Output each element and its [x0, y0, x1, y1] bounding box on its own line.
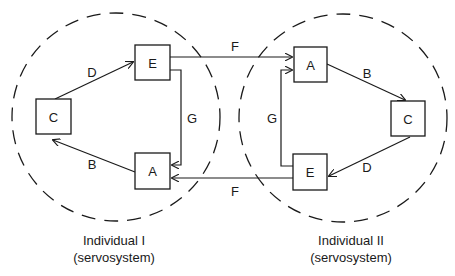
- edge-label-b-2: B: [363, 66, 372, 81]
- node-label: C: [49, 110, 58, 125]
- node-1-a: A: [135, 153, 170, 189]
- node-label: C: [403, 112, 412, 127]
- node-label: E: [148, 56, 157, 71]
- node-label: A: [148, 164, 157, 179]
- caption-individual-1-subtitle: (servosystem): [73, 250, 155, 265]
- caption-individual-2-subtitle: (servosystem): [310, 250, 392, 265]
- edge-1-e-to-a: [170, 70, 181, 165]
- edge-label-d-2: D: [362, 160, 371, 175]
- node-label: A: [306, 58, 315, 73]
- edge-label-g-1: G: [187, 111, 197, 126]
- node-1-c: C: [36, 99, 71, 134]
- edge-label-b-1: B: [88, 157, 97, 172]
- edge-label-g-2: G: [267, 111, 277, 126]
- edge-label-d-1: D: [87, 65, 96, 80]
- node-label: E: [306, 165, 315, 180]
- node-2-a: A: [294, 47, 327, 82]
- edge-2-e-to-a: [281, 70, 293, 166]
- caption-individual-1-title: Individual I: [83, 233, 145, 248]
- caption-individual-2-title: Individual II: [318, 233, 384, 248]
- node-2-c: C: [391, 101, 425, 136]
- node-2-e: E: [293, 154, 327, 190]
- node-1-e: E: [135, 45, 170, 80]
- edge-label-f-bottom: F: [231, 184, 239, 199]
- servosystem-diagram: C E A A C E B D G F F B D G Individual I…: [0, 0, 455, 276]
- edge-label-f-top: F: [231, 39, 239, 54]
